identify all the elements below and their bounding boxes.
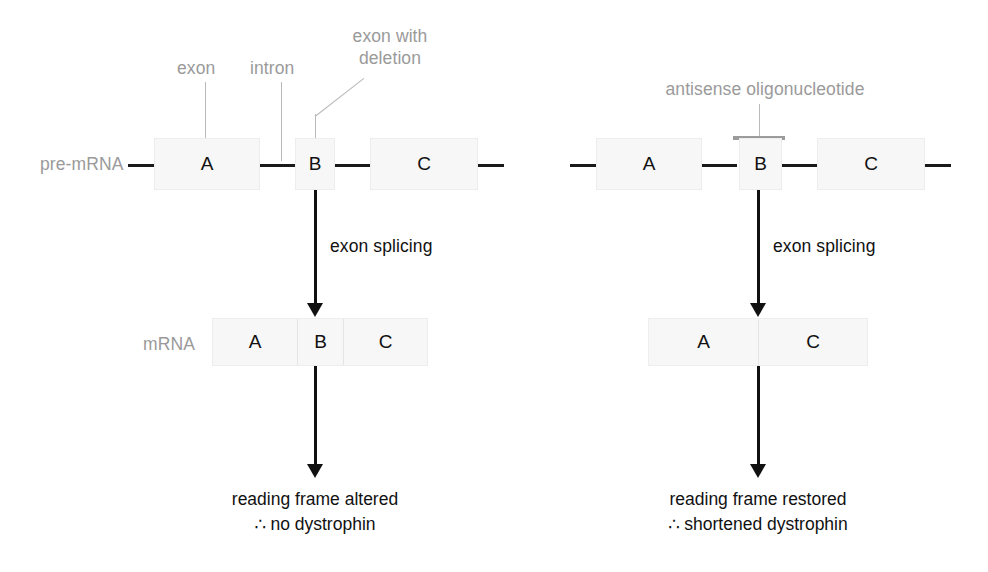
outcome-line1: reading frame altered xyxy=(165,487,465,512)
translation-arrow-shaft xyxy=(314,366,317,466)
splicing-arrow-head-right xyxy=(750,303,766,317)
outcome-line2: ∴ no dystrophin xyxy=(165,512,465,537)
outcome-line1-right: reading frame restored xyxy=(608,487,908,512)
mrna-segment-c: C xyxy=(343,319,427,365)
splicing-arrow-shaft-right xyxy=(757,190,760,305)
mrna-segment-a-right-label: A xyxy=(697,331,710,353)
pre-mrna-exon-a-label: A xyxy=(201,153,214,175)
pre-mrna-exon-b-right: B xyxy=(739,138,782,190)
annotation-intron-label: intron xyxy=(250,58,294,79)
translation-arrow-head-right xyxy=(750,464,766,478)
annotation-exon-with-deletion-line1: exon with xyxy=(330,26,450,47)
exon-leader-line xyxy=(205,82,206,146)
splicing-arrow-shaft xyxy=(314,190,317,305)
pre-mrna-exon-a: A xyxy=(154,138,260,190)
mrna-segment-a: A xyxy=(213,319,297,365)
pre-mrna-exon-b-right-label: B xyxy=(754,153,767,175)
annotation-exon-with-deletion-line2: deletion xyxy=(330,48,450,69)
pre-mrna-exon-b: B xyxy=(295,138,335,190)
backbone-segment-end xyxy=(478,164,504,167)
backbone-segment-ab-right xyxy=(702,164,737,167)
pre-mrna-exon-c-right: C xyxy=(817,138,925,190)
mrna-segment-a-label: A xyxy=(249,331,262,353)
mrna-segment-c-right: C xyxy=(758,319,867,365)
intron-leader-line xyxy=(281,82,282,161)
splicing-arrow-head xyxy=(307,303,323,317)
mrna-row-label: mRNA xyxy=(143,334,195,355)
backbone-segment-bc xyxy=(335,164,370,167)
pre-mrna-exon-b-label: B xyxy=(309,153,322,175)
pre-mrna-exon-c-label: C xyxy=(417,153,431,175)
splicing-process-label-right: exon splicing xyxy=(773,235,875,258)
exon-deletion-leader-diagonal xyxy=(315,78,364,117)
backbone-segment-ab xyxy=(260,164,295,167)
antisense-leader-line xyxy=(759,104,760,138)
pre-mrna-exon-c: C xyxy=(370,138,478,190)
backbone-segment-end-right xyxy=(925,164,951,167)
mrna-bar-right: A C xyxy=(648,318,868,366)
pre-mrna-exon-a-right: A xyxy=(596,138,702,190)
translation-arrow-shaft-right xyxy=(757,366,760,466)
mrna-segment-c-label: C xyxy=(379,331,393,353)
pre-mrna-exon-a-right-label: A xyxy=(643,153,656,175)
annotation-exon-label: exon xyxy=(177,58,215,79)
annotation-antisense-oligonucleotide-label: antisense oligonucleotide xyxy=(630,79,900,100)
exon-skipping-diagram: exon intron exon with deletion pre-mRNA … xyxy=(0,0,988,572)
mrna-bar: A B C xyxy=(212,318,428,366)
mrna-segment-b-label: B xyxy=(314,331,327,353)
backbone-segment-start-right xyxy=(570,164,596,167)
mrna-segment-c-right-label: C xyxy=(806,331,820,353)
mrna-segment-b: B xyxy=(297,319,343,365)
pre-mrna-row-label: pre-mRNA xyxy=(40,154,123,175)
outcome-line2-right: ∴ shortened dystrophin xyxy=(608,512,908,537)
pre-mrna-exon-c-right-label: C xyxy=(864,153,878,175)
translation-arrow-head xyxy=(307,464,323,478)
mrna-segment-a-right: A xyxy=(649,319,758,365)
splicing-process-label: exon splicing xyxy=(330,235,432,258)
backbone-segment-start xyxy=(128,164,154,167)
backbone-segment-bc-right xyxy=(782,164,817,167)
